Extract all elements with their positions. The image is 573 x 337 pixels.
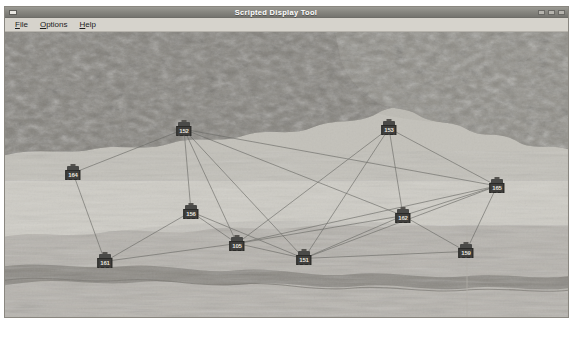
map-node-162[interactable]: 162 bbox=[392, 209, 414, 223]
menu-item-file-rest: ile bbox=[20, 20, 28, 29]
maximize-button[interactable] bbox=[548, 10, 555, 15]
network-nodes: 152153164165156162161105151159 bbox=[5, 32, 568, 317]
map-node-152[interactable]: 152 bbox=[173, 122, 195, 136]
node-base-icon bbox=[491, 191, 503, 193]
node-base-icon bbox=[298, 263, 310, 265]
window-title: Scripted Display Tool bbox=[21, 7, 531, 18]
node-base-icon bbox=[460, 256, 472, 258]
node-base-icon bbox=[67, 178, 79, 180]
menu-item-help[interactable]: Help bbox=[74, 18, 102, 31]
node-base-icon bbox=[383, 133, 395, 135]
map-node-165[interactable]: 165 bbox=[486, 179, 508, 193]
menu-item-options[interactable]: Options bbox=[34, 18, 74, 31]
map-node-159[interactable]: 159 bbox=[455, 244, 477, 258]
menu-bar: File Options Help bbox=[5, 18, 568, 32]
window-controls bbox=[531, 10, 568, 15]
map-node-153[interactable]: 153 bbox=[378, 121, 400, 135]
map-node-151[interactable]: 151 bbox=[293, 251, 315, 265]
map-node-161[interactable]: 161 bbox=[94, 254, 116, 268]
menu-item-file[interactable]: File bbox=[9, 18, 34, 31]
application-window: Scripted Display Tool File Options Help bbox=[4, 6, 569, 318]
node-base-icon bbox=[99, 266, 111, 268]
node-base-icon bbox=[397, 221, 409, 223]
map-canvas[interactable]: 152153164165156162161105151159 bbox=[5, 32, 568, 317]
minimize-button[interactable] bbox=[538, 10, 545, 15]
close-button[interactable] bbox=[558, 10, 565, 15]
node-base-icon bbox=[231, 249, 243, 251]
node-base-icon bbox=[178, 134, 190, 136]
window-menu-icon bbox=[9, 10, 17, 15]
map-node-156[interactable]: 156 bbox=[180, 205, 202, 219]
menu-item-help-rest: elp bbox=[85, 20, 96, 29]
title-bar: Scripted Display Tool bbox=[5, 7, 568, 18]
window-menu-button[interactable] bbox=[5, 10, 21, 15]
map-node-105[interactable]: 105 bbox=[226, 237, 248, 251]
node-base-icon bbox=[185, 217, 197, 219]
map-node-164[interactable]: 164 bbox=[62, 166, 84, 180]
menu-item-options-rest: ptions bbox=[46, 20, 67, 29]
